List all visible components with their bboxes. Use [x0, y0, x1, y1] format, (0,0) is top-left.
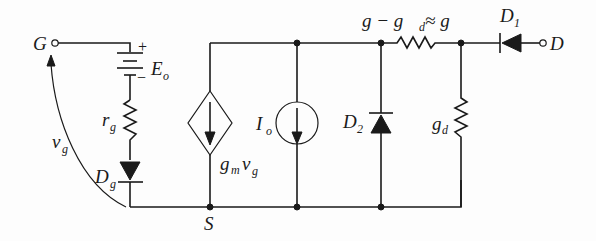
battery-eo: + − E o	[117, 38, 169, 86]
diode-d2-label: D	[342, 111, 357, 132]
diode-dg: D g	[94, 162, 143, 191]
battery-label-sub: o	[163, 69, 169, 83]
dependent-current-source: g m v g	[188, 43, 258, 207]
diode-d1-sub: 1	[514, 16, 520, 30]
circuit-diagram: G + − E o r g D g v g S	[0, 0, 596, 241]
gate-voltage-sub: g	[62, 142, 68, 156]
gate-terminal: G	[33, 33, 58, 54]
battery-label: E	[150, 58, 163, 79]
shunt-conductance-sub: d	[442, 123, 449, 137]
resistor-rg-sub: g	[110, 120, 116, 134]
dep-source-label-g: g	[220, 153, 230, 174]
current-source-sub: o	[266, 124, 272, 138]
shunt-conductance: g d	[432, 43, 467, 207]
gate-voltage-label: v	[52, 131, 61, 152]
diode-d2-sub: 2	[357, 122, 363, 136]
current-source-label: I	[255, 113, 264, 134]
drain-label: D	[549, 33, 564, 54]
dep-source-label-vsub: g	[252, 164, 258, 178]
current-source-io: I o	[255, 43, 318, 207]
battery-minus-sign: −	[137, 69, 146, 86]
dep-source-label-m: m	[231, 163, 240, 177]
gate-wire	[58, 43, 130, 52]
diode-d2: D 2	[342, 43, 393, 207]
resistor-rg: r g	[102, 100, 136, 160]
battery-plus-sign: +	[138, 38, 147, 55]
diode-dg-sub: g	[110, 177, 116, 191]
gate-label: G	[33, 33, 47, 54]
shunt-conductance-label: g	[432, 113, 442, 134]
series-conductance-approx: ≈ g	[425, 10, 450, 31]
bottom-rail	[130, 180, 461, 207]
diode-d1-label: D	[499, 5, 514, 26]
diode-d1: D 1	[461, 5, 540, 53]
drain-terminal: D	[540, 33, 564, 54]
series-conductance-label: g − g	[362, 10, 403, 31]
dep-source-label-v: v	[242, 153, 251, 174]
resistor-rg-label: r	[102, 109, 110, 130]
source-label: S	[204, 213, 214, 234]
